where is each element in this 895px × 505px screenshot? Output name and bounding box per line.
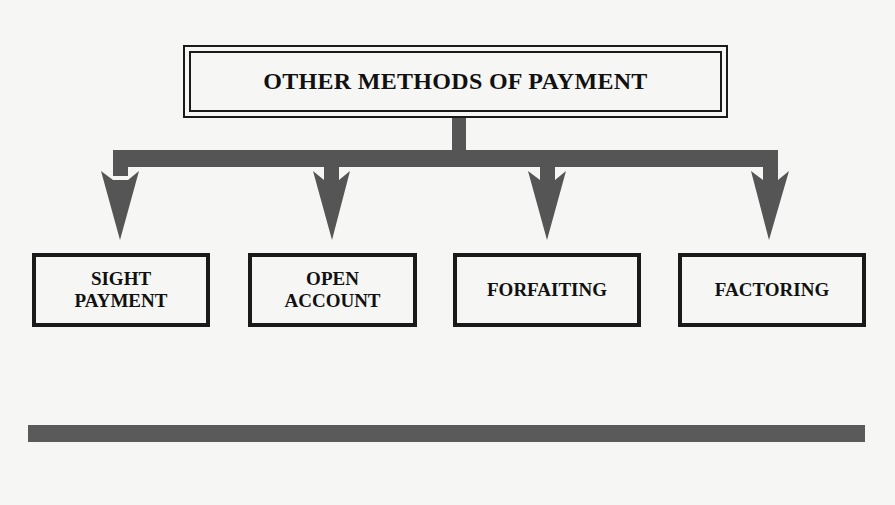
- node-label: OPEN ACCOUNT: [284, 268, 380, 312]
- node-factoring: FACTORING: [678, 253, 866, 327]
- node-forfaiting: FORFAITING: [453, 253, 641, 327]
- node-label: FORFAITING: [487, 279, 607, 301]
- root-stem: [452, 118, 466, 152]
- node-sight-payment: SIGHT PAYMENT: [32, 253, 210, 327]
- horizontal-bus: [113, 150, 778, 167]
- bottom-divider-bar: [28, 425, 865, 442]
- node-label: FACTORING: [715, 279, 829, 301]
- node-open-account: OPEN ACCOUNT: [248, 253, 417, 327]
- payment-methods-diagram: OTHER METHODS OF PAYMENT: [0, 0, 895, 505]
- arrow-down-icon: [528, 160, 566, 240]
- arrow-down-icon: [313, 160, 350, 240]
- node-label: SIGHT PAYMENT: [75, 268, 168, 312]
